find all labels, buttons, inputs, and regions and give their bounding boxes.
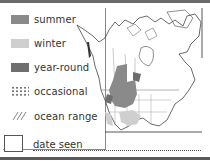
- north-america-map-icon: [75, 8, 203, 149]
- winter-swatch-icon: [11, 39, 29, 48]
- legend-label: summer: [34, 14, 76, 25]
- dotted-pattern-icon: [11, 86, 29, 96]
- hatch-pattern-icon: [11, 111, 29, 121]
- bottom-border: [0, 157, 210, 160]
- legend-item-summer: summer: [11, 13, 76, 25]
- date-seen-checkbox[interactable]: [4, 135, 23, 152]
- summer-swatch-icon: [11, 15, 29, 24]
- date-seen-input-line[interactable]: [33, 150, 201, 151]
- year-round-swatch-icon: [11, 63, 29, 72]
- legend-item-winter: winter: [11, 37, 66, 49]
- legend-label: winter: [34, 38, 66, 49]
- date-seen-label: date seen: [33, 139, 83, 150]
- range-map: [75, 8, 203, 149]
- top-border: [0, 0, 210, 3]
